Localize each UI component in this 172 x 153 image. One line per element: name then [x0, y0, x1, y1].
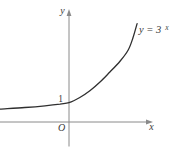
graph-canvas: y x O 1 y = 3 x — [0, 0, 172, 153]
curve-equation-exponent: x — [164, 23, 169, 32]
y-axis-label: y — [59, 5, 65, 16]
curve-equation-label: y = 3 x — [138, 19, 169, 36]
exponential-function-figure: y x O 1 y = 3 x — [0, 0, 172, 153]
origin-label: O — [58, 122, 65, 133]
y-axis-arrowhead-icon — [67, 9, 72, 16]
curve-equation-base: y = 3 — [138, 24, 161, 35]
y-intercept-label: 1 — [58, 94, 63, 104]
x-axis-label: x — [148, 121, 154, 132]
